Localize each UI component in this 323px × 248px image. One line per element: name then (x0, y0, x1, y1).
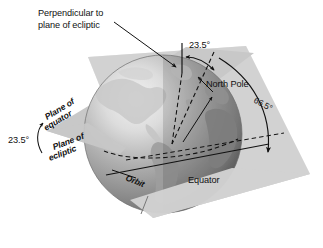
tilt-angle-top-label: 23.5° (189, 40, 210, 50)
earth-tilt-diagram: Perpendicular to plane of ecliptic 23.5°… (0, 0, 323, 248)
tilt-angle-arc-left (38, 123, 43, 153)
north-pole-label: North Pole (206, 79, 248, 89)
tilt-angle-left-label: 23.5° (8, 135, 29, 145)
equator-label: Equator (188, 175, 220, 185)
perpendicular-label-line2: plane of ecliptic (38, 20, 100, 30)
perpendicular-label-line1: Perpendicular to (38, 8, 103, 18)
